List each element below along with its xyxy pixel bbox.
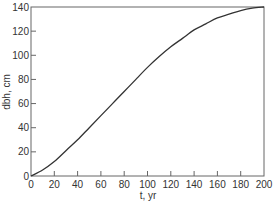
- x-tick-label: 0: [28, 179, 34, 190]
- y-tick-label: 0: [23, 171, 29, 182]
- x-tick-label: 60: [95, 179, 107, 190]
- x-tick-label: 200: [256, 179, 273, 190]
- y-axis-ticks: 020406080100120140: [12, 2, 36, 182]
- y-tick-label: 40: [18, 122, 30, 133]
- x-axis-label: t, yr: [140, 190, 157, 201]
- y-tick-label: 60: [18, 98, 30, 109]
- y-tick-label: 100: [12, 50, 29, 61]
- x-tick-label: 80: [119, 179, 131, 190]
- y-tick-label: 140: [12, 2, 29, 13]
- dbh-curve: [31, 7, 264, 176]
- x-tick-label: 160: [209, 179, 226, 190]
- x-tick-label: 120: [162, 179, 179, 190]
- chart: 020406080100120140160180200 020406080100…: [0, 0, 277, 202]
- x-tick-label: 40: [72, 179, 84, 190]
- x-axis-ticks: 020406080100120140160180200: [28, 171, 273, 190]
- x-tick-label: 140: [186, 179, 203, 190]
- x-tick-label: 180: [232, 179, 249, 190]
- y-axis-label: dbh, cm: [1, 74, 12, 110]
- x-tick-label: 100: [139, 179, 156, 190]
- y-tick-label: 80: [18, 74, 30, 85]
- x-tick-label: 20: [49, 179, 61, 190]
- y-tick-label: 20: [18, 146, 30, 157]
- y-tick-label: 120: [12, 26, 29, 37]
